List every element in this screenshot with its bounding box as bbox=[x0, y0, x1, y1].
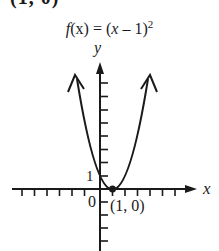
y-axis-label: y bbox=[92, 39, 102, 57]
vertex-label: (1, 0) bbox=[110, 197, 145, 215]
y-ticks bbox=[100, 83, 108, 241]
curve-right-arrow-icon bbox=[141, 75, 157, 92]
graph: y x 1 0 (1, 0) bbox=[0, 0, 219, 251]
x-axis-arrow-icon bbox=[185, 185, 197, 193]
y-axis-arrow-icon bbox=[96, 62, 104, 74]
vertex-point bbox=[109, 186, 116, 193]
x-ticks bbox=[22, 189, 175, 196]
y-intercept-label: 1 bbox=[86, 168, 94, 184]
x-axis-label: x bbox=[202, 179, 211, 198]
curve-left-arrow-icon bbox=[68, 75, 84, 92]
origin-label: 0 bbox=[88, 193, 96, 210]
